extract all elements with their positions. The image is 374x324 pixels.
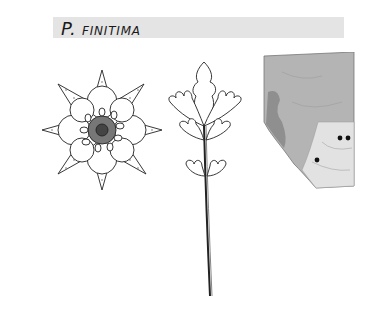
distribution-map [262,52,358,210]
genus-abbreviation: P. [61,18,76,39]
species-title-bar: P. finitima [53,17,344,38]
flower-illustration [40,68,164,192]
leaf-illustration [160,56,250,302]
species-title: P. finitima [61,18,141,39]
species-epithet: finitima [82,24,141,38]
